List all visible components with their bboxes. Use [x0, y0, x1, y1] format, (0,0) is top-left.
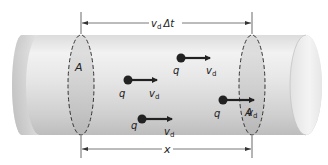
top-dimension: vdΔt — [81, 12, 252, 34]
cross-section-right — [239, 35, 265, 135]
svg-text:q: q — [119, 88, 125, 99]
drift-velocity-diagram: A A vdΔt x q vd q vd q vd — [0, 0, 328, 165]
distance-label-x: x — [163, 143, 171, 156]
distance-label-vd-dt: vdΔt — [151, 18, 175, 31]
bottom-dimension: x — [81, 136, 252, 158]
svg-text:q: q — [214, 108, 220, 119]
svg-text:q: q — [173, 65, 179, 76]
area-label-left: A — [74, 61, 83, 74]
cross-section-left — [68, 35, 94, 135]
svg-text:q: q — [131, 120, 137, 131]
